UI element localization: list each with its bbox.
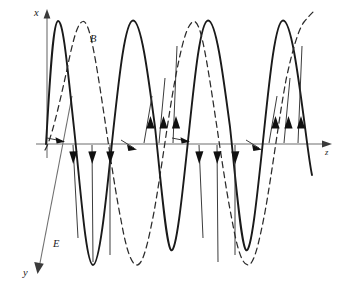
b-field-label: B [90,33,97,44]
faint-watermark-text [213,1,275,8]
arrow-down-icon [88,151,96,164]
field-vector-line [159,78,165,143]
arrow-down-right-icon [127,144,137,151]
arrow-up-icon [44,9,51,19]
field-vector-up-group-2 [269,46,305,143]
field-vector-up-group-1 [144,46,180,143]
wave-diagram-svg: x z y B E [0,0,341,284]
x-axis-label: x [33,7,39,18]
arrow-down-icon [195,151,203,164]
electromagnetic-wave-figure: x z y B E [0,0,341,284]
y-axis-label: y [22,267,28,278]
z-axis-label: z [324,147,329,157]
field-vector-down-group-1 [69,145,114,262]
arrow-down-left-icon [34,262,44,274]
arrow-down-icon [106,151,114,164]
arrow-down-right-icon [252,144,262,151]
e-field-wave-curve [46,20,312,265]
e-field-label: E [52,238,60,249]
arrow-up-icon [172,116,180,129]
arrow-down-icon [213,151,221,164]
